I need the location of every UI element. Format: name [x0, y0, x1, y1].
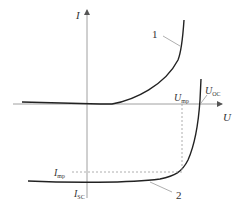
curve-2-leader [150, 182, 172, 192]
u-oc-label: UOC [205, 85, 221, 97]
iv-characteristic-diagram: I U 1 2 Ump UOC Imp ISC [0, 0, 241, 212]
curve-2-label: 2 [176, 189, 182, 201]
i-mp-label: Imp [53, 167, 65, 179]
curve-1-leader [163, 36, 180, 46]
u-oc-leader [201, 95, 207, 103]
i-sc-label: ISC [73, 188, 85, 200]
i-axis-label: I [75, 9, 81, 21]
u-axis-label: U [223, 111, 232, 123]
curve-1 [22, 20, 184, 104]
u-mp-label: Ump [174, 92, 189, 104]
curve-1-label: 1 [152, 28, 158, 40]
